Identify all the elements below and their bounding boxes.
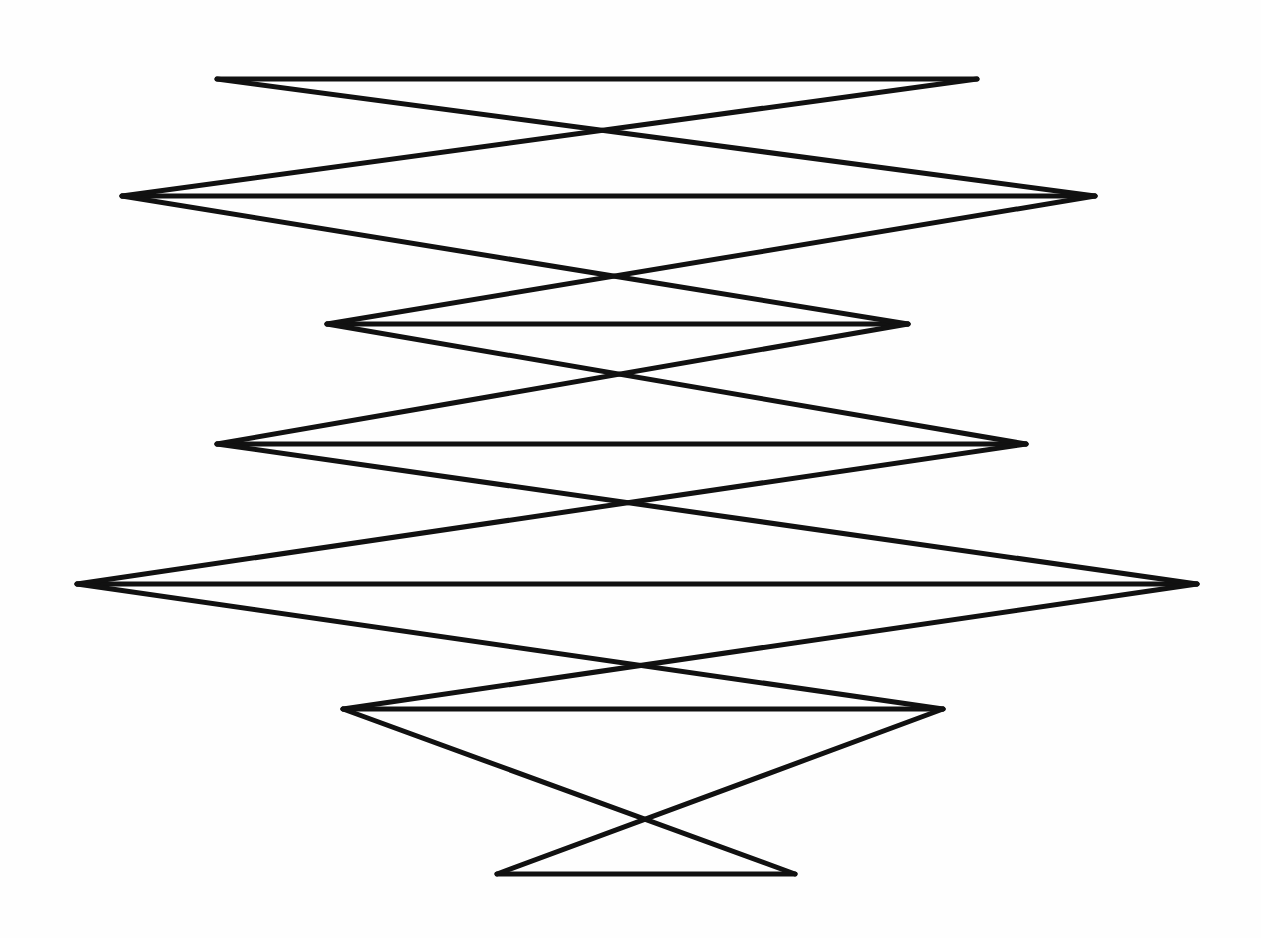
diagram-canvas [0,0,1261,938]
diagonal-down-left-2 [327,196,1095,324]
diagonal-down-right-2 [122,196,908,324]
diagonal-down-right-5 [77,584,943,709]
horizontal-rungs [77,79,1197,874]
diagonal-down-right-4 [217,444,1197,584]
diagonal-down-left-1 [122,79,977,196]
diagonal-down-right-3 [327,324,1026,444]
diagonal-down-left-5 [343,584,1197,709]
zigzag-diagram [0,0,1261,938]
diagonal-down-right-1 [217,79,1095,196]
diagonal-down-left-4 [77,444,1026,584]
diagonal-down-left-3 [217,324,908,444]
